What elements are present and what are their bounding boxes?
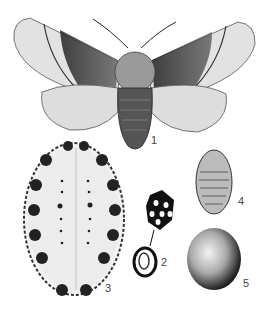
- pupa: [196, 150, 232, 214]
- adult-moth: [14, 18, 255, 149]
- label-pupa: 4: [238, 195, 244, 207]
- cocoon: [187, 228, 241, 290]
- label-adult-moth: 1: [151, 134, 157, 146]
- label-egg-mass: 2: [161, 256, 167, 268]
- illustration: [0, 0, 269, 316]
- label-cocoon: 5: [243, 277, 249, 289]
- egg-mass: [134, 190, 174, 276]
- label-larva: 3: [105, 282, 111, 294]
- larva: [24, 141, 124, 296]
